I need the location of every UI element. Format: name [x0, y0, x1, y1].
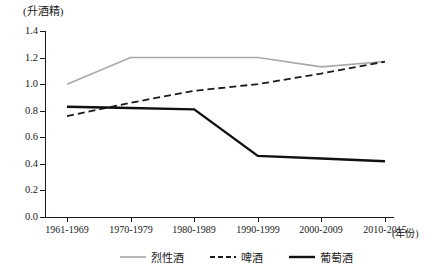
y-axis-tick — [40, 58, 45, 59]
y-axis-tick-label: 0.2 — [4, 185, 38, 195]
y-axis-tick-label: 0.8 — [4, 106, 38, 116]
x-axis-tick — [131, 217, 132, 222]
chart-legend: 烈性酒啤酒葡萄酒 — [120, 249, 353, 265]
legend-item[interactable]: 葡萄酒 — [289, 249, 353, 265]
y-axis-tick-label: 1.0 — [4, 79, 38, 89]
y-axis-tick-label: 0.0 — [4, 212, 38, 222]
y-axis-tick — [40, 190, 45, 191]
legend-line-swatch-icon — [210, 252, 236, 262]
x-axis-tick — [194, 217, 195, 222]
y-axis-tick — [40, 111, 45, 112]
legend-label: 啤酒 — [241, 249, 263, 265]
legend-line-swatch-icon — [289, 252, 315, 262]
y-axis-tick — [40, 137, 45, 138]
x-axis-tick — [321, 217, 322, 222]
y-axis-tick — [40, 31, 45, 32]
series-plot — [45, 31, 394, 218]
alcohol-consumption-line-chart: (升酒精) 0.00.20.40.60.81.01.21.4 1961-1969… — [0, 0, 430, 272]
y-axis-tick-labels: 0.00.20.40.60.81.01.21.4 — [0, 0, 38, 272]
legend-item[interactable]: 啤酒 — [210, 249, 263, 265]
y-axis-tick-label: 1.4 — [4, 26, 38, 36]
y-axis-tick — [40, 164, 45, 165]
series-line — [67, 58, 385, 85]
x-axis-tick-label: 2000-2009 — [299, 224, 342, 235]
legend-item[interactable]: 烈性酒 — [120, 249, 184, 265]
legend-label: 烈性酒 — [151, 249, 184, 265]
x-axis-tick — [385, 217, 386, 222]
series-line — [67, 107, 385, 161]
x-axis-unit-label: (年份) — [392, 225, 419, 240]
x-axis-tick-label: 1961-1969 — [45, 224, 88, 235]
y-axis-tick — [40, 217, 45, 218]
y-axis-tick-label: 0.4 — [4, 159, 38, 169]
x-axis-tick-label: 1970-1979 — [109, 224, 152, 235]
x-axis-tick — [67, 217, 68, 222]
x-axis-tick — [258, 217, 259, 222]
x-axis-tick-label: 1990-1999 — [236, 224, 279, 235]
y-axis-tick — [40, 84, 45, 85]
legend-label: 葡萄酒 — [320, 249, 353, 265]
y-axis-tick-label: 0.6 — [4, 132, 38, 142]
legend-line-swatch-icon — [120, 252, 146, 262]
y-axis-tick-label: 1.2 — [4, 53, 38, 63]
x-axis-tick-label: 1980-1989 — [172, 224, 215, 235]
